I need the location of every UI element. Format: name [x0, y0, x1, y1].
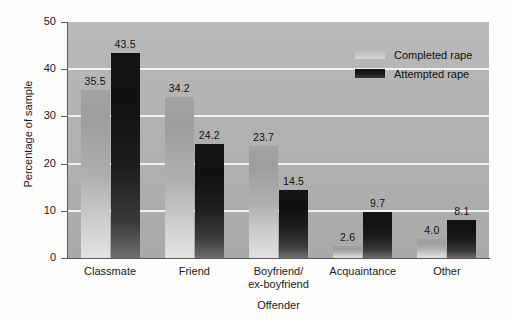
bar-value-label: 14.5 [269, 175, 318, 187]
chart-legend: Completed rape Attempted rape [355, 45, 472, 83]
x-tick-label-line: Other [387, 265, 507, 278]
bar-attempted-4 [447, 220, 476, 258]
legend-swatch-attempted-rape [355, 69, 385, 78]
legend-item-completed-rape: Completed rape [355, 45, 472, 64]
y-axis-title: Percentage of sample [22, 44, 34, 224]
x-tick-label-line: ex-boyfriend [219, 278, 339, 291]
x-tick-label-4: Other [387, 265, 507, 278]
y-tick-mark [61, 258, 68, 259]
bar-value-label: 34.2 [155, 82, 204, 94]
bar-attempted-2 [279, 190, 308, 258]
y-axis-line [67, 22, 68, 259]
bar-attempted-1 [195, 144, 224, 258]
bar-attempted-0 [111, 53, 140, 258]
y-tick-label: 0 [16, 251, 56, 263]
y-tick-mark [61, 211, 68, 212]
y-tick-mark [61, 69, 68, 70]
y-tick-mark [61, 116, 68, 117]
bar-value-label: 23.7 [239, 131, 288, 143]
y-tick-label: 50 [16, 15, 56, 27]
bar-value-label: 9.7 [353, 197, 402, 209]
x-axis-line [67, 258, 490, 259]
y-tick-mark [61, 164, 68, 165]
bar-completed-2 [249, 146, 278, 258]
bar-chart-figure: 35.543.534.224.223.714.52.69.74.08.1 010… [0, 0, 511, 320]
y-tick-mark [61, 22, 68, 23]
bar-value-label: 8.1 [437, 205, 486, 217]
x-axis-title: Offender [68, 299, 489, 311]
bar-completed-0 [81, 90, 110, 258]
bar-completed-4 [417, 239, 446, 258]
bar-attempted-3 [363, 212, 392, 258]
bar-completed-1 [165, 97, 194, 258]
bar-value-label: 43.5 [101, 38, 150, 50]
legend-swatch-completed-rape [355, 50, 385, 59]
legend-label-completed-rape: Completed rape [394, 49, 472, 61]
bar-completed-3 [333, 246, 362, 258]
legend-label-attempted-rape: Attempted rape [394, 68, 469, 80]
legend-item-attempted-rape: Attempted rape [355, 64, 472, 83]
bar-value-label: 24.2 [185, 129, 234, 141]
